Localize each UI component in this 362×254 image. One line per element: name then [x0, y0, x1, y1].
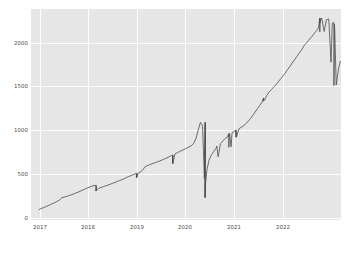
- ytick-label-2000: 2000: [0, 40, 28, 46]
- xtick-label-2020: 2020: [178, 224, 192, 230]
- ytick-label-1000: 1000: [0, 127, 28, 133]
- ytick-label-0: 0: [0, 215, 28, 221]
- xtick-label-2021: 2021: [227, 224, 241, 230]
- plot-area: [31, 9, 341, 220]
- xtick-label-2017: 2017: [33, 224, 47, 230]
- ytick-label-1500: 1500: [0, 83, 28, 89]
- xtick-label-2018: 2018: [81, 224, 95, 230]
- data-series-line: [31, 9, 341, 220]
- chart-figure: 2000 1500 1000 500 0 2017 2018 2019 2020…: [0, 0, 362, 254]
- ytick-label-500: 500: [0, 171, 28, 177]
- xtick-label-2019: 2019: [130, 224, 144, 230]
- xtick-label-2022: 2022: [276, 224, 290, 230]
